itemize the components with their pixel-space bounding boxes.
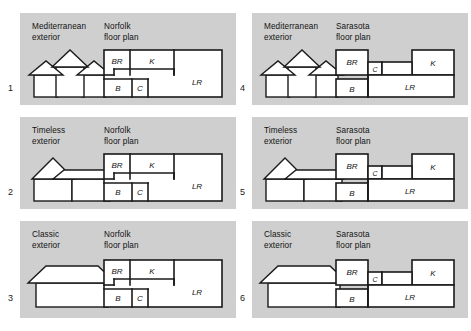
room-lr: LR	[405, 83, 415, 92]
cell-6: Classic exterior Sarasota floor plan	[252, 221, 468, 318]
room-br: BR	[111, 267, 122, 276]
cell-5-number: 5	[240, 188, 245, 197]
room-b: B	[115, 188, 121, 197]
cell-2-number: 2	[8, 188, 13, 197]
cell-6-number: 6	[240, 294, 245, 303]
room-k: K	[149, 267, 155, 276]
room-br: BR	[346, 268, 357, 277]
room-k: K	[430, 269, 436, 278]
room-br: BR	[111, 161, 122, 170]
cell-3: Classic exterior Norfolk floor plan	[20, 221, 236, 318]
room-lr: LR	[192, 288, 202, 297]
room-b: B	[115, 84, 121, 93]
room-b: B	[349, 295, 355, 304]
design-matrix: Mediterranean exterior Norfolk floor pla…	[0, 0, 471, 331]
cell-5: Timeless exterior Sarasota floor plan	[252, 117, 468, 209]
room-k: K	[149, 161, 155, 170]
room-lr: LR	[192, 78, 202, 87]
room-b: B	[115, 294, 121, 303]
room-c: C	[137, 84, 143, 93]
room-br: BR	[346, 58, 357, 67]
room-lr: LR	[192, 182, 202, 191]
cell-1: Mediterranean exterior Norfolk floor pla…	[20, 13, 236, 105]
cell-1-number: 1	[8, 84, 13, 93]
cell-4-number: 4	[240, 84, 245, 93]
cell-1-artwork: BR K B C LR	[20, 13, 236, 105]
room-k: K	[430, 59, 436, 68]
cell-2-artwork: BR K B C LR	[20, 117, 236, 209]
room-lr: LR	[405, 187, 415, 196]
room-c: C	[137, 294, 143, 303]
cell-4: Mediterranean exterior Sarasota floor pl…	[252, 13, 468, 105]
cell-3-number: 3	[8, 294, 13, 303]
cell-2: Timeless exterior Norfolk floor plan	[20, 117, 236, 209]
cell-5-artwork: BR C K B LR	[252, 117, 468, 209]
room-b: B	[349, 85, 355, 94]
room-k: K	[430, 163, 436, 172]
room-lr: LR	[405, 293, 415, 302]
room-k: K	[149, 57, 155, 66]
cell-4-artwork: BR C K B LR	[252, 13, 468, 105]
room-b: B	[349, 189, 355, 198]
room-c: C	[137, 188, 143, 197]
room-br: BR	[111, 57, 122, 66]
room-br: BR	[346, 162, 357, 171]
cell-6-artwork: BR C K B LR	[252, 221, 468, 318]
cell-3-artwork: BR K B C LR	[20, 221, 236, 318]
